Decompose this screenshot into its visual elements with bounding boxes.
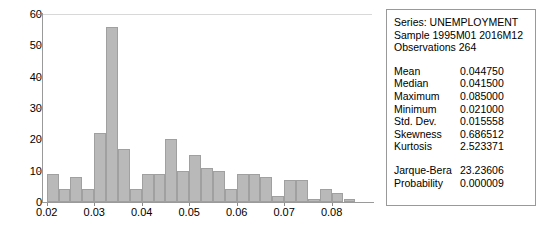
histogram-bar: [308, 199, 320, 202]
statistic-row: Std. Dev.0.015558: [394, 115, 535, 128]
x-axis-tick-label: 0.02: [36, 206, 57, 218]
statistic-label: Probability: [394, 177, 460, 190]
x-axis-tick-label: 0.04: [131, 206, 152, 218]
x-axis-tick-mark: [284, 203, 285, 206]
y-axis-tick-label: 20: [8, 134, 42, 144]
normality-test-list: Jarque-Bera23.23606Probability0.000009: [394, 164, 535, 189]
histogram-bar: [344, 199, 356, 202]
x-axis-tick-label: 0.05: [178, 206, 199, 218]
histogram-bar: [237, 174, 249, 202]
statistic-row: Kurtosis2.523371: [394, 140, 535, 153]
x-axis-tick-mark: [94, 203, 95, 206]
histogram-bar: [130, 189, 142, 202]
histogram-statistics-view: 0102030405060 0.020.030.040.050.060.070.…: [0, 0, 543, 226]
stats-spacer-mid: [394, 153, 535, 164]
statistic-value: 0.686512: [460, 128, 504, 141]
histogram-bars: [42, 14, 372, 202]
histogram-bar: [142, 174, 154, 202]
histogram-bar: [82, 189, 94, 202]
statistic-value: 0.041500: [460, 77, 504, 90]
statistic-row: Minimum0.021000: [394, 103, 535, 116]
x-axis-tick-mark: [332, 203, 333, 206]
x-axis-tick-label: 0.03: [84, 206, 105, 218]
histogram-bar: [106, 27, 118, 202]
statistic-label: Skewness: [394, 128, 460, 141]
statistic-label: Mean: [394, 65, 460, 78]
histogram-bar: [320, 189, 332, 202]
statistic-value: 23.23606: [460, 164, 504, 177]
statistic-label: Maximum: [394, 90, 460, 103]
observations-line: Observations 264: [394, 41, 535, 54]
x-axis-line: [42, 202, 374, 203]
statistic-row: Skewness0.686512: [394, 128, 535, 141]
histogram-bar: [201, 168, 213, 202]
histogram-bar: [296, 180, 308, 202]
x-axis-tick-label: 0.08: [321, 206, 342, 218]
statistic-row: Jarque-Bera23.23606: [394, 164, 535, 177]
histogram-bar: [272, 196, 284, 202]
y-axis-tick-label: 60: [8, 9, 42, 19]
histogram-bar: [189, 155, 201, 202]
histogram-bar: [94, 133, 106, 202]
descriptive-statistics-list: Mean0.044750Median0.041500Maximum0.08500…: [394, 65, 535, 153]
x-axis-tick-mark: [142, 203, 143, 206]
statistic-value: 0.085000: [460, 90, 504, 103]
statistic-value: 0.044750: [460, 65, 504, 78]
histogram-bar: [284, 180, 296, 202]
histogram-bar: [249, 174, 261, 202]
histogram-bar: [213, 171, 225, 202]
statistic-row: Median0.041500: [394, 77, 535, 90]
y-axis-tick-label: 10: [8, 166, 42, 176]
histogram-bar: [260, 177, 272, 202]
histogram-bar: [332, 193, 344, 202]
statistic-label: Jarque-Bera: [394, 164, 460, 177]
statistic-row: Probability0.000009: [394, 177, 535, 190]
histogram-bar: [118, 149, 130, 202]
histogram-bar: [165, 139, 177, 202]
x-axis-tick-mark: [237, 203, 238, 206]
histogram-bar: [154, 174, 166, 202]
statistics-box: Series: UNEMPLOYMENT Sample 1995M01 2016…: [386, 9, 536, 206]
histogram-bar: [225, 189, 237, 202]
x-axis-tick-label: 0.07: [273, 206, 294, 218]
statistic-label: Minimum: [394, 103, 460, 116]
series-name-line: Series: UNEMPLOYMENT: [394, 16, 535, 29]
y-axis-tick-label: 30: [8, 103, 42, 113]
y-axis-tick-label: 50: [8, 40, 42, 50]
statistic-label: Kurtosis: [394, 140, 460, 153]
stats-spacer-top: [394, 54, 535, 65]
histogram-bar: [70, 177, 82, 202]
statistic-row: Maximum0.085000: [394, 90, 535, 103]
histogram-panel: 0102030405060 0.020.030.040.050.060.070.…: [0, 0, 380, 226]
x-axis-tick-mark: [189, 203, 190, 206]
histogram-bar: [59, 189, 71, 202]
histogram-bar: [177, 171, 189, 202]
y-axis-tick-label: 40: [8, 72, 42, 82]
statistic-value: 0.021000: [460, 103, 504, 116]
statistic-value: 0.015558: [460, 115, 504, 128]
statistic-label: Std. Dev.: [394, 115, 460, 128]
statistic-value: 2.523371: [460, 140, 504, 153]
x-axis-tick-label: 0.06: [226, 206, 247, 218]
statistic-value: 0.000009: [460, 177, 504, 190]
x-axis-tick-mark: [47, 203, 48, 206]
statistic-row: Mean0.044750: [394, 65, 535, 78]
histogram-bar: [47, 174, 59, 202]
sample-range-line: Sample 1995M01 2016M12: [394, 29, 535, 42]
statistic-label: Median: [394, 77, 460, 90]
